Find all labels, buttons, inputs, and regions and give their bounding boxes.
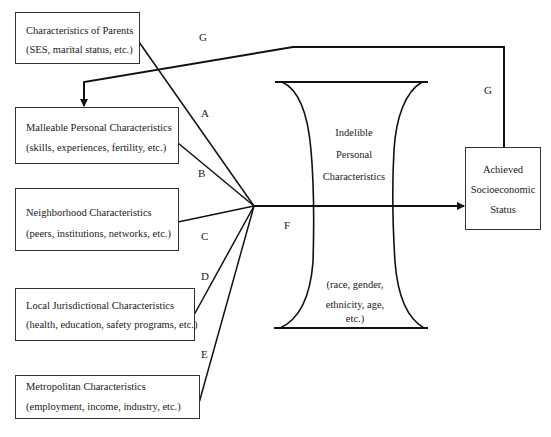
box-subtitle: (peers, institutions, networks, etc.): [26, 229, 171, 240]
box-subtitle: (SES, marital status, etc.): [26, 45, 133, 56]
path-label-a: A: [201, 107, 209, 119]
path-label-e: E: [201, 348, 208, 360]
path-label-c: C: [201, 230, 208, 242]
indelible-title-line: Personal: [314, 149, 394, 160]
path-label-b: B: [198, 167, 205, 179]
box-achieved-socioeconomic-status: Achieved Socioeconomic Status: [465, 147, 541, 230]
indelible-title-line: Indelible: [314, 127, 394, 138]
path-label-d: D: [201, 270, 209, 282]
path-c-line: [178, 206, 254, 222]
indelible-detail-line: ethnicity, age,: [310, 299, 400, 310]
path-label-g-left: G: [199, 31, 207, 43]
box-neighborhood-characteristics: Neighborhood Characteristics (peers, ins…: [15, 188, 179, 251]
box-title: Malleable Personal Characteristics: [26, 123, 172, 134]
indelible-detail-line: (race, gender,: [310, 279, 400, 290]
box-local-jurisdictional-characteristics: Local Jurisdictional Characteristics (he…: [15, 288, 195, 341]
box-malleable-personal-characteristics: Malleable Personal Characteristics (skil…: [15, 107, 179, 164]
indelible-title-line: Characteristics: [314, 171, 394, 182]
outcome-line: Socioeconomic: [466, 184, 540, 195]
box-title: Characteristics of Parents: [26, 26, 133, 37]
box-title: Local Jurisdictional Characteristics: [26, 301, 174, 312]
indelible-hourglass-shape: [274, 82, 428, 328]
path-d-line: [194, 206, 254, 315]
path-label-f: F: [284, 219, 290, 231]
outcome-line: Status: [466, 204, 540, 215]
box-characteristics-of-parents: Characteristics of Parents (SES, marital…: [15, 12, 140, 64]
box-subtitle: (health, education, safety programs, etc…: [26, 320, 197, 331]
box-title: Metropolitan Characteristics: [26, 382, 146, 393]
box-title: Neighborhood Characteristics: [26, 208, 152, 219]
path-label-g-right: G: [484, 84, 492, 96]
outcome-line: Achieved: [466, 164, 540, 175]
box-subtitle: (employment, income, industry, etc.): [26, 402, 181, 413]
box-metropolitan-characteristics: Metropolitan Characteristics (employment…: [15, 375, 200, 419]
indelible-detail-line: etc.): [310, 313, 400, 324]
box-subtitle: (skills, experiences, fertility, etc.): [26, 143, 166, 154]
